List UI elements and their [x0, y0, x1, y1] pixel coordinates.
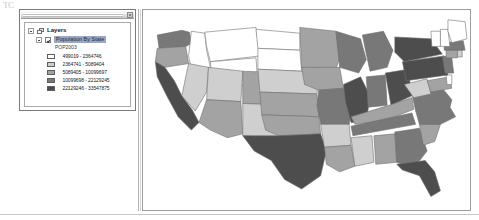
tree-label-layers: Layers [47, 27, 66, 33]
choropleth-map [145, 12, 468, 208]
layers-icon [37, 28, 44, 34]
state-polygon[interactable] [446, 75, 452, 85]
state-polygon[interactable] [336, 31, 366, 73]
state-polygon[interactable] [446, 50, 457, 58]
legend-field-label: POP2003 [55, 44, 130, 51]
legend-row[interactable]: 22129246 - 33547875 [47, 84, 130, 91]
table-of-contents-panel: × Layers Population By State POP2003 [19, 9, 136, 111]
legend-swatch [47, 70, 55, 75]
toc-content-area: Layers Population By State POP2003 49901… [24, 22, 131, 107]
state-polygon[interactable] [205, 27, 260, 61]
expand-collapse-icon[interactable] [36, 37, 42, 43]
state-polygon[interactable] [260, 92, 319, 117]
state-polygon[interactable] [258, 48, 302, 71]
close-icon[interactable]: × [127, 12, 133, 18]
legend-swatch [47, 54, 55, 59]
state-polygon[interactable] [157, 30, 191, 48]
corner-artifact: TC [3, 1, 19, 10]
tree-row-population-by-state[interactable]: Population By State [36, 35, 130, 43]
state-polygon[interactable] [300, 27, 340, 69]
legend-label: 22129246 - 33547875 [62, 85, 109, 92]
state-polygon[interactable] [199, 100, 243, 138]
state-polygon[interactable] [362, 31, 392, 71]
state-polygon[interactable] [321, 124, 351, 147]
expand-collapse-icon[interactable] [28, 28, 34, 34]
state-polygon[interactable] [397, 160, 441, 196]
state-polygon[interactable] [448, 20, 467, 43]
state-polygon[interactable] [324, 145, 354, 172]
legend-swatch [47, 86, 55, 91]
state-polygon[interactable] [374, 134, 397, 164]
legend-swatch [47, 78, 55, 83]
legend-class-list: 499019 - 2364746 2364741 - 5089404 50894… [47, 52, 130, 91]
toc-title-bar[interactable]: × [21, 11, 134, 19]
state-polygon[interactable] [256, 29, 300, 50]
page-bottom-edge [0, 214, 479, 215]
toc-drag-grip[interactable] [23, 13, 123, 17]
state-polygon[interactable] [207, 67, 243, 101]
state-polygon[interactable] [431, 31, 441, 46]
map-canvas[interactable] [145, 12, 468, 208]
panel-divider[interactable] [138, 9, 139, 211]
panel-divider-shadow [140, 9, 141, 211]
tree-row-layers[interactable]: Layers [28, 26, 130, 34]
tree-label-population-by-state: Population By State [54, 36, 106, 43]
map-data-frame[interactable] [142, 9, 471, 211]
state-polygon[interactable] [351, 136, 374, 166]
layer-visibility-checkbox[interactable] [45, 37, 51, 43]
state-polygon[interactable] [366, 75, 387, 107]
state-polygon[interactable] [457, 50, 462, 57]
state-polygon[interactable] [155, 46, 188, 67]
map-application-window: TC × Layers Population By State P [0, 0, 479, 220]
state-polygon[interactable] [419, 124, 440, 145]
state-polygon[interactable] [243, 134, 327, 189]
legend-swatch [47, 62, 55, 67]
